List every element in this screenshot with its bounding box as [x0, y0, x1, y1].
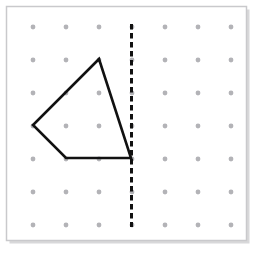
peg-dot-r5-c1 [31, 157, 36, 162]
peg-dot-r7-c3 [97, 223, 102, 228]
geoboard-canvas [0, 0, 256, 254]
peg-dot-r6-c3 [97, 190, 102, 195]
peg-dot-r7-c6 [196, 223, 201, 228]
peg-dot-r3-c6 [196, 91, 201, 96]
peg-dot-r2-c1 [31, 58, 36, 63]
peg-dot-r2-c5 [163, 58, 168, 63]
peg-dot-r4-c3 [97, 124, 102, 129]
peg-dot-r6-c6 [196, 190, 201, 195]
peg-dot-r1-c6 [196, 25, 201, 30]
peg-dot-r1-c3 [97, 25, 102, 30]
peg-dot-r6-c2 [64, 190, 69, 195]
peg-dot-r3-c3 [97, 91, 102, 96]
peg-dot-r6-c5 [163, 190, 168, 195]
peg-dot-r3-c1 [31, 91, 36, 96]
geoboard-figure [0, 0, 256, 254]
peg-dot-r7-c2 [64, 223, 69, 228]
peg-dot-r2-c2 [64, 58, 69, 63]
peg-dot-r7-c7 [229, 223, 234, 228]
peg-dot-r2-c7 [229, 58, 234, 63]
peg-dot-r1-c1 [31, 25, 36, 30]
peg-dot-r4-c7 [229, 124, 234, 129]
peg-dot-r7-c1 [31, 223, 36, 228]
peg-dot-r1-c7 [229, 25, 234, 30]
peg-dot-r7-c5 [163, 223, 168, 228]
peg-dot-r3-c5 [163, 91, 168, 96]
peg-dot-r6-c1 [31, 190, 36, 195]
peg-dot-r2-c6 [196, 58, 201, 63]
peg-dot-r5-c7 [229, 157, 234, 162]
peg-dot-r5-c5 [163, 157, 168, 162]
peg-dot-r6-c7 [229, 190, 234, 195]
peg-dot-r5-c6 [196, 157, 201, 162]
peg-dot-r3-c7 [229, 91, 234, 96]
geoboard-frame [7, 7, 247, 241]
peg-dot-r1-c2 [64, 25, 69, 30]
peg-dot-r1-c5 [163, 25, 168, 30]
peg-dot-r4-c2 [64, 124, 69, 129]
peg-dot-r4-c5 [163, 124, 168, 129]
peg-dot-r4-c6 [196, 124, 201, 129]
